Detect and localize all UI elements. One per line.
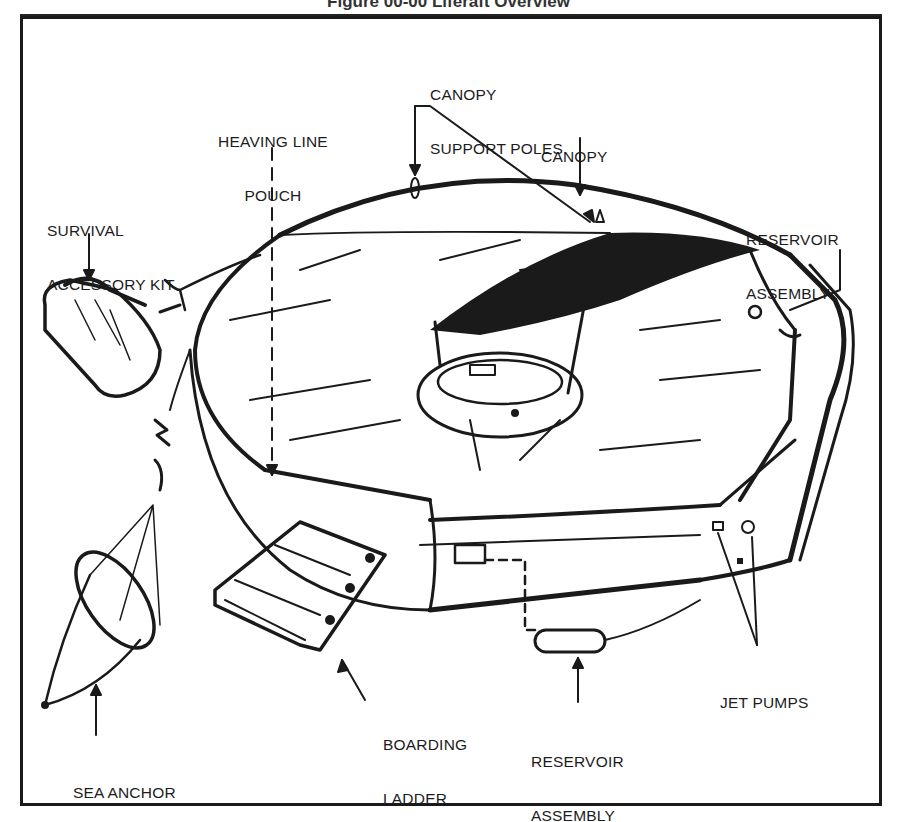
label-line: ACCESSORY KIT [47, 276, 175, 294]
label-line: POUCH [208, 187, 338, 205]
label-survival-accessory-kit: SURVIVAL ACCESSORY KIT [47, 186, 175, 312]
leader-lines [84, 106, 840, 735]
label-reservoir-assembly-top: RESERVOIR ASSEMBLY [746, 195, 839, 321]
label-line: LADDER [383, 790, 467, 808]
label-line: SEA ANCHOR [73, 784, 176, 802]
label-line: SURVIVAL [47, 222, 175, 240]
label-heaving-line-pouch: HEAVING LINE POUCH [208, 97, 338, 223]
label-line: JET PUMPS [720, 694, 809, 712]
label-line: RESERVOIR [531, 753, 624, 771]
label-boarding-ladder: BOARDING LADDER [383, 700, 467, 822]
label-line: CANOPY [541, 148, 608, 166]
label-line: CANOPY [430, 86, 563, 104]
reservoir-assembly-bottom-shape [455, 545, 700, 652]
label-line: ASSEMBLY [746, 285, 839, 303]
label-reservoir-assembly-bottom: RESERVOIR ASSEMBLY [531, 717, 624, 822]
boarding-ladder-shape [215, 522, 385, 650]
support-pole-tip-right [596, 210, 604, 222]
canopy [230, 232, 760, 470]
label-line: BOARDING [383, 736, 467, 754]
jet-pumps-shape [713, 521, 754, 564]
label-jet-pumps: JET PUMPS [720, 658, 809, 730]
label-line: ASSEMBLY [531, 807, 624, 822]
label-sea-anchor: SEA ANCHOR [73, 748, 176, 820]
label-canopy: CANOPY [541, 112, 608, 184]
label-line: HEAVING LINE [208, 133, 338, 151]
heaving-line [180, 255, 260, 290]
sea-anchor-shape [41, 350, 190, 709]
label-line: RESERVOIR [746, 231, 839, 249]
